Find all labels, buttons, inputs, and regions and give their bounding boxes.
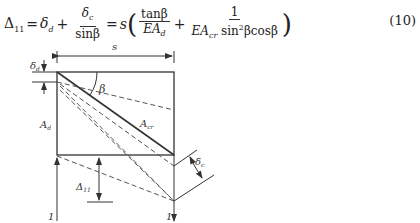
label-s: s (112, 41, 117, 52)
label-load-right: 1 (166, 211, 172, 222)
truss-diagram: s β δd Ad Acr δc Δ11 1 1 (0, 0, 420, 223)
label-delta-c: δc (195, 156, 205, 168)
delta-c-ext-2 (174, 175, 214, 201)
label-Delta11: Δ11 (75, 181, 91, 193)
label-load-left: 1 (48, 211, 54, 222)
deformed-line-1 (60, 84, 174, 166)
deformed-bottom-chord (57, 156, 174, 201)
label-Ad: Ad (39, 119, 51, 131)
label-delta-d: δd (30, 60, 40, 72)
diagonal-member-Acr (57, 72, 174, 155)
label-Acr: Acr (139, 118, 155, 130)
deformed-top-chord (57, 82, 174, 110)
delta-c-arrow-a (190, 157, 194, 165)
label-beta: β (98, 83, 105, 96)
